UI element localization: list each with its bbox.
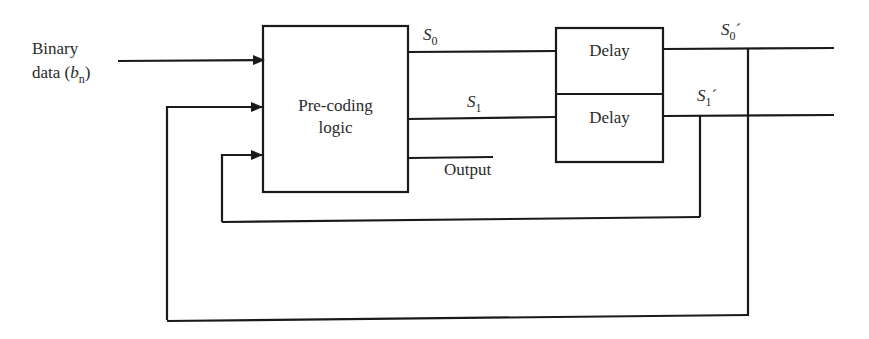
output-label: Output <box>444 160 491 180</box>
s0-label: S0 <box>423 25 438 51</box>
feedback-arrow-s0 <box>167 107 262 320</box>
s0p-var: S <box>721 20 730 39</box>
s1-sub: 1 <box>476 101 482 115</box>
input-label-line1: Binary <box>32 39 78 59</box>
input-label-close: ) <box>85 63 91 82</box>
s0-feedback-bottom <box>167 315 748 321</box>
s1-feedback-bottom <box>222 217 700 222</box>
input-label-text: data ( <box>32 63 70 82</box>
s0p-prime: ´ <box>736 20 742 39</box>
s1-label: S1 <box>467 92 482 118</box>
precoding-label-line1: Pre-coding <box>263 96 408 116</box>
precoding-block-diagram: Binary data (bn) Pre-coding logic S0 S1 … <box>0 0 869 339</box>
input-label-line2: data (bn) <box>32 63 90 89</box>
delay-top-label: Delay <box>556 41 663 61</box>
s0-prime-label: S0´ <box>721 20 741 46</box>
precoding-label-line2: logic <box>263 118 408 138</box>
s1p-prime: ´ <box>712 86 718 105</box>
s0-line <box>408 51 556 52</box>
input-arrow <box>118 60 264 61</box>
feedback-arrow-s1 <box>222 155 262 222</box>
s0-prime-line <box>663 48 834 49</box>
output-line <box>409 157 493 158</box>
s1-prime-label: S1´ <box>697 86 717 112</box>
s1-var: S <box>467 92 476 111</box>
delay-bottom-label: Delay <box>556 108 663 128</box>
s0-sub: 0 <box>432 34 438 48</box>
s1p-var: S <box>697 86 706 105</box>
input-var: b <box>70 63 79 82</box>
s1-line <box>408 117 556 119</box>
s0-var: S <box>423 25 432 44</box>
